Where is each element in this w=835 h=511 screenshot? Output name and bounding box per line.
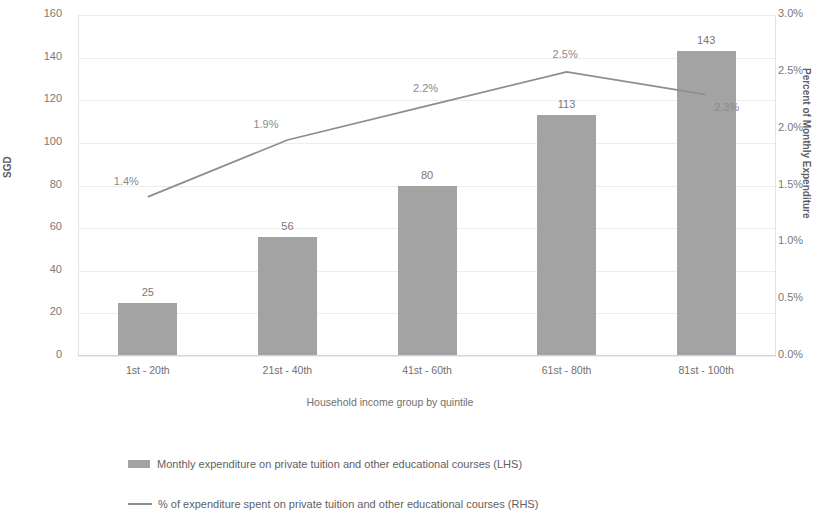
y-axis-right-tick-label: 1.5% [778,178,803,190]
x-axis-category-label: 21st - 40th [227,364,347,376]
legend-item-line: % of expenditure spent on private tuitio… [0,484,835,511]
y-axis-right-tick-label: 0.5% [778,291,803,303]
line-series [78,15,776,356]
y-axis-right-tick-label: 2.0% [778,121,803,133]
y-axis-left-ticks: 020406080100120140160 [18,0,62,511]
y-axis-right-ticks: 0.0%0.5%1.0%1.5%2.0%2.5%3.0% [778,0,828,511]
chart-container: SGD Percent of Monthly Expenditure 02040… [0,0,835,511]
y-axis-left-tick-label: 160 [18,7,62,19]
x-axis-tick-labels: 1st - 20th21st - 40th41st - 60th61st - 8… [78,364,776,384]
line-value-label: 1.9% [253,118,278,130]
x-axis-category-label: 41st - 60th [367,364,487,376]
line-value-label: 2.2% [413,82,438,94]
chart-legend: Monthly expenditure on private tuition a… [0,444,835,511]
x-axis-title: Household income group by quintile [0,396,780,408]
y-axis-right-tick-label: 1.0% [778,234,803,246]
x-axis-category-label: 61st - 80th [507,364,627,376]
y-axis-left-tick-label: 40 [18,263,62,275]
legend-line-swatch-icon [128,503,152,505]
y-axis-left-tick-label: 80 [18,178,62,190]
x-axis-category-label: 81st - 100th [646,364,766,376]
line-value-label: 1.4% [114,175,139,187]
x-axis-baseline [78,355,776,356]
line-value-label: 2.3% [714,101,739,113]
y-axis-right-tick-label: 2.5% [778,64,803,76]
y-axis-left-tick-label: 120 [18,92,62,104]
legend-bar-label: Monthly expenditure on private tuition a… [157,458,522,470]
gridline [78,356,776,357]
y-axis-right-tick-label: 3.0% [778,7,803,19]
legend-bar-swatch-icon [128,460,150,468]
y-axis-left-tick-label: 60 [18,220,62,232]
y-axis-left-title: SGD [2,156,13,178]
line-value-label: 2.5% [553,48,578,60]
legend-line-label: % of expenditure spent on private tuitio… [158,498,538,510]
y-axis-left-tick-label: 0 [18,348,62,360]
y-axis-left-tick-label: 100 [18,135,62,147]
x-axis-category-label: 1st - 20th [88,364,208,376]
plot-area: 255680113143 1.4%1.9%2.2%2.5%2.3% [78,15,776,356]
y-axis-left-tick-label: 140 [18,50,62,62]
y-axis-left-tick-label: 20 [18,305,62,317]
y-axis-right-tick-label: 0.0% [778,348,803,360]
legend-item-bar: Monthly expenditure on private tuition a… [0,444,835,484]
